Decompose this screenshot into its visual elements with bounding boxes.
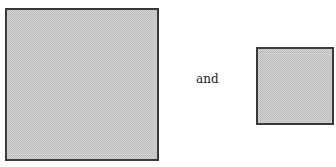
large-square [5,8,159,161]
small-square [256,47,334,125]
and-label: and [196,72,219,86]
